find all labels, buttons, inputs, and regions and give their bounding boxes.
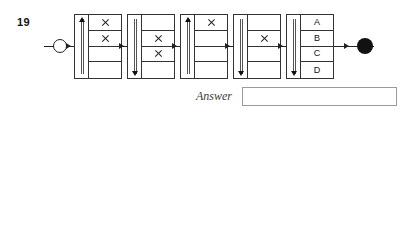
cross-icon	[260, 34, 269, 43]
rail-line	[187, 19, 190, 74]
rail-line	[240, 19, 243, 74]
worksheet-page: 19 ABCD Answer 20 ABCD Answer	[0, 0, 414, 226]
answer-row: Answer	[196, 87, 397, 106]
grid-cell	[89, 15, 121, 31]
arrow-up-icon	[185, 17, 191, 22]
option-letter: D	[314, 66, 321, 75]
grid-cell: A	[301, 15, 333, 31]
grid-cell	[195, 47, 227, 63]
cross-icon	[154, 49, 163, 58]
cross-icon	[101, 34, 110, 43]
direction-track	[234, 15, 248, 78]
flow-arrowhead-icon	[66, 43, 71, 49]
cell-stack	[142, 15, 174, 78]
answer-options-box: ABCD	[286, 14, 334, 79]
grid-cell	[142, 15, 174, 31]
cross-icon	[207, 18, 216, 27]
cell-stack: ABCD	[301, 15, 333, 78]
cross-icon	[101, 18, 110, 27]
end-filled-circle-icon	[357, 38, 373, 54]
grid-cell	[248, 31, 280, 47]
flow-arrowhead-icon	[278, 43, 283, 49]
flow-arrowhead-icon	[119, 43, 124, 49]
arrow-up-icon	[79, 17, 85, 22]
grid-cell: C	[301, 47, 333, 63]
option-letter: B	[314, 34, 320, 43]
question-row: 19 ABCD Answer	[0, 0, 414, 113]
grid-cell: D	[301, 62, 333, 78]
option-letter: C	[314, 49, 321, 58]
grid-cell	[89, 62, 121, 78]
grid-cell	[89, 31, 121, 47]
grid-cell	[195, 15, 227, 31]
grid-cell	[89, 47, 121, 63]
grid-cell	[142, 62, 174, 78]
cell-stack	[248, 15, 280, 78]
cell-stack	[89, 15, 121, 78]
flow-arrowhead-icon	[172, 43, 177, 49]
arrow-down-icon	[238, 71, 244, 76]
direction-track	[75, 15, 89, 78]
answer-label: Answer	[196, 89, 232, 104]
question-number: 19	[17, 16, 30, 28]
flow-arrowhead-icon	[225, 43, 230, 49]
arrow-down-icon	[132, 71, 138, 76]
grid-cell	[195, 62, 227, 78]
rail-line	[81, 19, 84, 74]
grid-cell	[195, 31, 227, 47]
flow-arrowhead-icon	[344, 43, 349, 49]
grid-cell	[248, 15, 280, 31]
grid-cell	[248, 62, 280, 78]
cell-stack	[195, 15, 227, 78]
direction-track	[181, 15, 195, 78]
direction-track	[287, 15, 301, 78]
grid-cell	[142, 31, 174, 47]
arrow-down-icon	[291, 71, 297, 76]
operation-box	[74, 14, 122, 79]
cross-icon	[154, 34, 163, 43]
operation-box	[127, 14, 175, 79]
operation-box	[180, 14, 228, 79]
grid-cell	[248, 47, 280, 63]
direction-track	[128, 15, 142, 78]
operation-box	[233, 14, 281, 79]
rail-line	[293, 19, 296, 74]
option-letter: A	[314, 18, 320, 27]
rail-line	[134, 19, 137, 74]
answer-input[interactable]	[242, 87, 397, 106]
sequence-diagram: ABCD	[44, 14, 374, 80]
grid-cell: B	[301, 31, 333, 47]
grid-cell	[142, 47, 174, 63]
start-hollow-circle-icon	[53, 39, 67, 53]
